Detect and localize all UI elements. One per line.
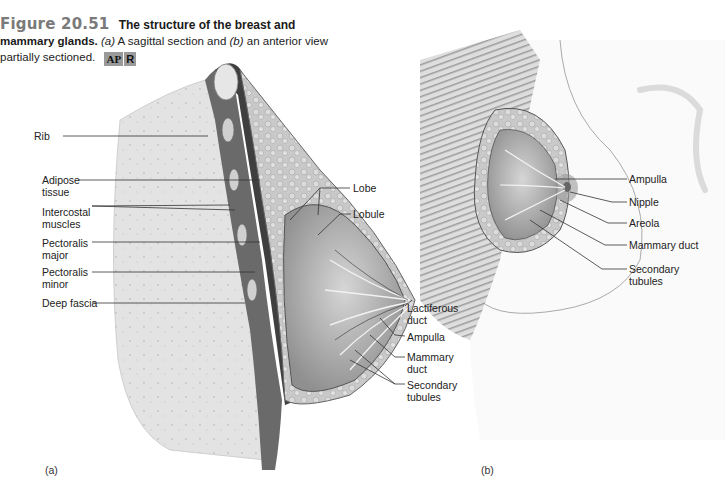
breast-anatomy-illustration (0, 0, 725, 494)
label-secondary-tubules-b: Secondary tubules (629, 263, 679, 287)
label-ampulla-a: Ampulla (407, 331, 445, 343)
label-rib: Rib (34, 130, 50, 142)
panel-a-label: (a) (45, 464, 58, 476)
label-ampulla-b: Ampulla (629, 173, 667, 185)
label-lactiferous-duct: Lactiferous duct (407, 302, 458, 326)
label-secondary-tubules-a: Secondary tubules (407, 379, 457, 403)
label-lobule: Lobule (353, 208, 385, 220)
panel-b-label: (b) (481, 464, 494, 476)
panel-a-art (113, 63, 415, 470)
label-nipple: Nipple (629, 196, 659, 208)
panel-b-art (420, 30, 725, 440)
label-areola: Areola (629, 217, 659, 229)
label-pectoralis-minor: Pectoralis minor (42, 266, 88, 290)
label-mammary-duct-a: Mammary duct (407, 351, 454, 375)
label-deep-fascia: Deep fascia (42, 297, 97, 309)
label-intercostal-muscles: Intercostal muscles (42, 206, 90, 230)
label-adipose-tissue: Adipose tissue (42, 174, 80, 198)
label-mammary-duct-b: Mammary duct (629, 239, 698, 251)
label-lobe: Lobe (353, 182, 376, 194)
label-pectoralis-major: Pectoralis major (42, 237, 88, 261)
